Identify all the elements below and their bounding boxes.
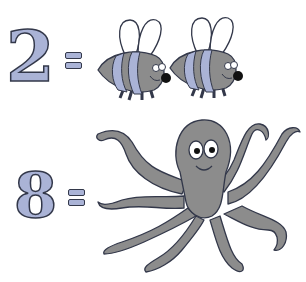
bee-icon — [168, 10, 248, 100]
equals-sign-1 — [65, 52, 82, 72]
number-two: 2 — [6, 22, 55, 92]
equals-sign-2 — [68, 189, 85, 209]
bee-icon — [96, 12, 176, 102]
octopus-icon — [92, 112, 304, 280]
number-eight: 8 — [14, 165, 57, 227]
